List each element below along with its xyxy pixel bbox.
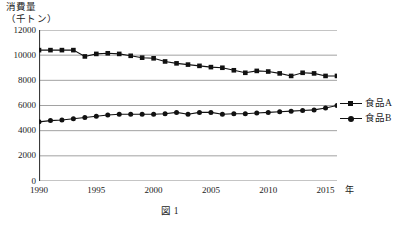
y-tick-label: 6000 bbox=[0, 101, 36, 110]
y-tick-label: 2000 bbox=[0, 151, 36, 160]
x-tick-label: 1990 bbox=[19, 186, 59, 195]
chart-legend: 食品A 食品B bbox=[340, 96, 392, 126]
y-tick-label: 4000 bbox=[0, 126, 36, 135]
legend-label-food-a: 食品A bbox=[365, 98, 392, 109]
legend-item-food-b[interactable]: 食品B bbox=[340, 111, 392, 126]
y-tick-label: 8000 bbox=[0, 76, 36, 85]
legend-marker-square-icon bbox=[340, 99, 362, 109]
y-axis-title-line1: 消費量 bbox=[6, 2, 37, 12]
x-tick-label: 2000 bbox=[134, 186, 174, 195]
x-axis-unit-label: 年 bbox=[345, 186, 354, 195]
y-axis-title-line2: （千トン） bbox=[6, 13, 57, 25]
legend-marker-circle-icon bbox=[340, 114, 362, 124]
x-tick-label: 2010 bbox=[248, 186, 288, 195]
y-tick-label: 10000 bbox=[0, 51, 36, 60]
chart-svg bbox=[39, 30, 337, 181]
y-axis-title: 消費量 （千トン） bbox=[6, 1, 57, 25]
x-tick-label: 2015 bbox=[306, 186, 346, 195]
x-tick-label: 1995 bbox=[76, 186, 116, 195]
legend-label-food-b: 食品B bbox=[365, 113, 391, 124]
figure-container: 消費量 （千トン） 120001000080006000400020000 19… bbox=[0, 0, 395, 231]
x-tick-label: 2005 bbox=[191, 186, 231, 195]
y-tick-label: 12000 bbox=[0, 26, 36, 35]
legend-item-food-a[interactable]: 食品A bbox=[340, 96, 392, 111]
plot-area bbox=[39, 30, 337, 181]
figure-caption: 図 1 bbox=[0, 203, 340, 217]
